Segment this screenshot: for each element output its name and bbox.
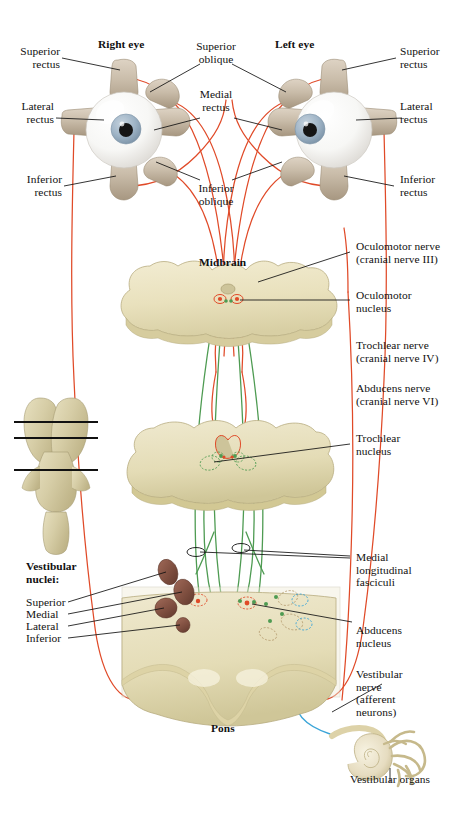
label-trochlear-nucleus: Trochlear nucleus bbox=[356, 432, 400, 457]
label-inferior-rectus-right: Inferior rectus bbox=[400, 173, 435, 198]
label-abducens-nucleus: Abducens nucleus bbox=[356, 624, 402, 649]
right-eye-label: Right eye bbox=[98, 38, 144, 51]
vestibular-nuclei-heading: Vestibular nuclei: bbox=[26, 560, 77, 585]
label-oculomotor-nucleus: Oculomotor nucleus bbox=[356, 289, 412, 314]
label-vn-inferior: Inferior bbox=[26, 632, 61, 645]
label-trochlear-nerve: Trochlear nerve (cranial nerve IV) bbox=[356, 339, 438, 364]
pons-upper-section bbox=[127, 421, 334, 511]
figure-canvas: Right eye Left eye Superior rectus Later… bbox=[0, 0, 458, 827]
label-inferior-oblique: Inferior oblique bbox=[178, 182, 254, 207]
left-eye-group bbox=[268, 59, 397, 200]
label-medial-rectus: Medial rectus bbox=[180, 88, 252, 113]
label-superior-oblique: Superior oblique bbox=[176, 40, 256, 65]
midbrain-section bbox=[121, 261, 337, 346]
label-vn-lateral: Lateral bbox=[26, 620, 59, 633]
label-abducens-nerve: Abducens nerve (cranial nerve VI) bbox=[356, 382, 438, 407]
label-oculomotor-nerve: Oculomotor nerve (cranial nerve III) bbox=[356, 240, 440, 265]
label-inferior-rectus-left: Inferior rectus bbox=[0, 173, 62, 198]
label-vn-medial: Medial bbox=[26, 608, 59, 621]
label-midbrain: Midbrain bbox=[199, 256, 246, 269]
label-vestibular-organs: Vestibular organs bbox=[350, 773, 430, 786]
label-vn-superior: Superior bbox=[26, 596, 66, 609]
label-superior-rectus-right: Superior rectus bbox=[400, 45, 440, 70]
left-eye-label: Left eye bbox=[275, 38, 314, 51]
label-vestibular-nerve: Vestibular nerve (afferent neurons) bbox=[356, 668, 403, 718]
label-medial-longitudinal-fasciculi: Medial longitudinal fasciculi bbox=[356, 551, 412, 589]
label-superior-rectus-left: Superior rectus bbox=[0, 45, 60, 70]
brainstem-inset bbox=[14, 398, 98, 555]
label-lateral-rectus-right: Lateral rectus bbox=[400, 100, 433, 125]
label-lateral-rectus-left: Lateral rectus bbox=[0, 100, 54, 125]
label-pons: Pons bbox=[211, 722, 235, 735]
pons-lower-section bbox=[122, 587, 340, 726]
